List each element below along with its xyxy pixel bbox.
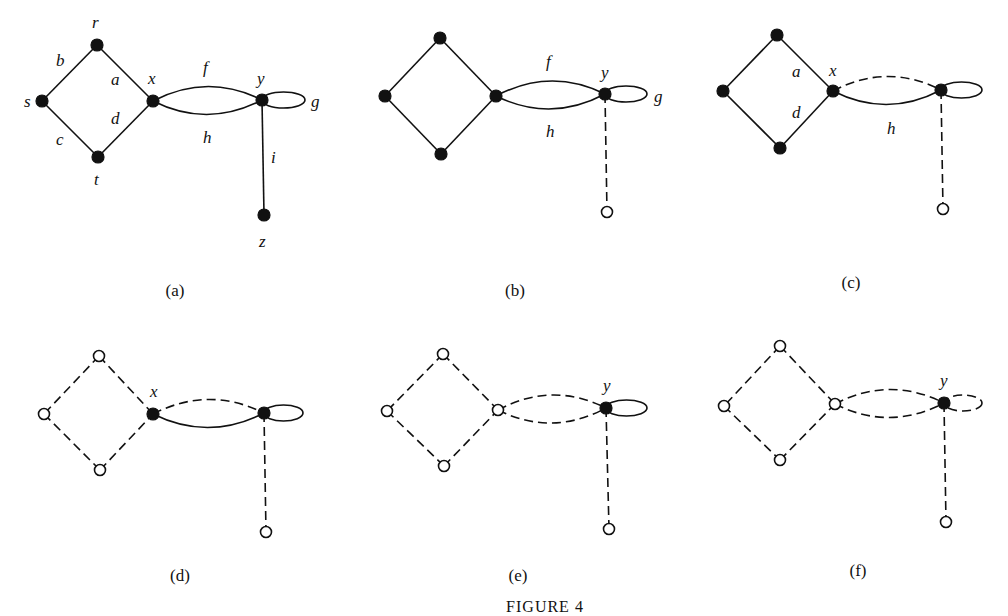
edge-d [780,91,833,148]
label-b: b [56,51,65,70]
label-y: y [601,376,611,395]
edge-d [100,414,153,470]
edge-i [941,90,943,209]
edge-c [387,411,444,466]
panel-caption-b: (b) [505,281,525,300]
edge-f [498,395,606,410]
edge-h [833,90,941,105]
vertex-z-open-icon [604,524,615,535]
edge-f [835,389,944,404]
vertex-t-open-icon [775,455,786,466]
figure-caption: FIGURE 4 [506,598,584,615]
vertex-x-filled-icon [147,95,159,107]
graph-panel-c: axdh(c) [717,29,982,292]
edge-h [496,94,605,109]
edge-a [99,356,153,414]
vertex-y-filled-icon [938,397,950,409]
label-f: f [203,58,210,77]
label-x: x [149,382,158,401]
edge-a [777,35,833,91]
label-y: y [938,371,948,390]
label-h: h [887,119,896,138]
edge-c [723,91,780,148]
vertex-s-open-icon [382,406,393,417]
edge-c [724,406,780,460]
edge-c [385,96,441,154]
vertex-y-filled-icon [600,402,612,414]
vertex-y-filled-icon [258,407,270,419]
vertex-x-open-icon [493,405,504,416]
edge-f [496,81,605,96]
edge-a [443,354,498,410]
label-x: x [147,69,156,88]
label-a: a [792,62,801,81]
edge-b [387,354,443,411]
vertex-t-filled-icon [92,151,104,163]
edge-h [498,408,606,423]
vertex-t-open-icon [439,461,450,472]
vertex-x-filled-icon [490,90,502,102]
label-h: h [203,128,212,147]
label-a: a [111,70,120,89]
vertex-y-filled-icon [256,94,268,106]
vertex-s-filled-icon [36,95,48,107]
vertex-r-filled-icon [434,32,446,44]
graph-panel-b: fygh(b) [379,32,663,300]
label-i: i [271,148,276,167]
vertex-r-open-icon [438,349,449,360]
edge-b [44,356,99,414]
edge-i [262,100,264,215]
vertex-r-filled-icon [91,39,103,51]
graph-panel-a: rbaxscdtfyghiz(a) [24,13,320,300]
label-y: y [599,63,609,82]
vertex-z-filled-icon [258,209,270,221]
panel-caption-c: (c) [842,273,861,292]
panel-caption-f: (f) [850,561,867,580]
edge-h [835,403,944,418]
label-h: h [546,122,555,141]
edge-d [98,101,153,157]
edge-a [780,346,835,404]
edge-i [944,403,946,522]
panel-caption-a: (a) [166,281,185,300]
edge-f [833,76,941,91]
vertex-s-open-icon [719,401,730,412]
edge-b [42,45,97,101]
vertex-x-open-icon [830,399,841,410]
vertex-t-filled-icon [774,142,786,154]
vertex-s-filled-icon [379,90,391,102]
graph-panel-d: x(d) [39,351,304,586]
vertex-r-filled-icon [771,29,783,41]
edge-i [605,94,607,212]
edge-f [153,399,264,414]
label-t: t [94,170,100,189]
edge-i [264,413,266,532]
label-g: g [654,87,663,106]
label-d: d [792,103,801,122]
vertex-r-open-icon [94,351,105,362]
label-g: g [311,92,320,111]
label-x: x [828,61,837,80]
vertex-y-filled-icon [935,84,947,96]
edge-c [42,101,98,157]
vertex-z-open-icon [602,207,613,218]
edge-d [780,404,835,460]
vertex-z-open-icon [938,204,949,215]
vertex-z-open-icon [261,527,272,538]
vertex-x-filled-icon [147,408,159,420]
vertex-y-filled-icon [599,88,611,100]
vertex-t-filled-icon [435,148,447,160]
panel-caption-e: (e) [509,566,528,585]
label-d: d [111,109,120,128]
edge-b [385,38,440,96]
vertex-z-open-icon [941,517,952,528]
panel-caption-d: (d) [170,566,190,585]
graph-panel-e: y(e) [382,349,648,586]
edge-h [153,413,264,428]
edge-c [44,414,100,470]
edge-f [153,86,262,101]
edge-b [724,346,780,406]
panels-layer: rbaxscdtfyghiz(a)fygh(b)axdh(c)x(d)y(e)y… [24,13,982,585]
edge-i [606,408,609,529]
vertex-x-filled-icon [827,85,839,97]
